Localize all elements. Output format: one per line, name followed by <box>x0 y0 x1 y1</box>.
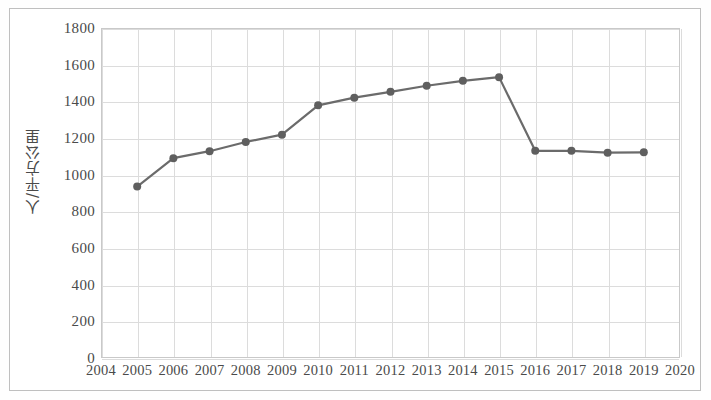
y-axis-tick-label: 1200 <box>5 130 95 147</box>
x-axis-tick-label: 2010 <box>303 362 333 379</box>
line-series-svg <box>101 28 680 358</box>
x-axis-tick-label: 2013 <box>412 362 442 379</box>
x-axis-tick-label: 2015 <box>484 362 514 379</box>
x-axis-tick-label: 2004 <box>86 362 116 379</box>
x-axis-tick-label: 2012 <box>376 362 406 379</box>
x-axis-tick-label: 2020 <box>665 362 695 379</box>
x-axis-tick-label: 2017 <box>557 362 587 379</box>
data-point-marker <box>242 138 250 146</box>
data-point-marker <box>206 147 214 155</box>
x-axis-tick-label: 2014 <box>448 362 478 379</box>
x-axis-tick-label: 2018 <box>593 362 623 379</box>
data-point-marker <box>640 148 648 156</box>
x-axis-tick-label: 2006 <box>158 362 188 379</box>
data-point-marker <box>278 131 286 139</box>
gridline-vertical <box>681 29 682 357</box>
data-point-marker <box>314 101 322 109</box>
data-point-marker <box>350 94 358 102</box>
x-axis-tick-label: 2016 <box>520 362 550 379</box>
y-axis-tick-label: 1000 <box>5 166 95 183</box>
data-point-marker <box>604 149 612 157</box>
data-point-marker <box>567 147 575 155</box>
chart-figure: 人/平方公里 180016001400120010008006004002000… <box>0 0 711 400</box>
x-axis-tick-labels: 2004200520062007200820092010201120122013… <box>101 362 680 388</box>
y-axis-tick-labels: 180016001400120010008006004002000 <box>0 28 95 358</box>
y-axis-tick-label: 800 <box>5 203 95 220</box>
y-axis-tick-label: 1800 <box>5 20 95 37</box>
x-axis-tick-label: 2011 <box>340 362 369 379</box>
x-axis-tick-label: 2009 <box>267 362 297 379</box>
x-axis-tick-label: 2007 <box>195 362 225 379</box>
x-axis-tick-label: 2019 <box>629 362 659 379</box>
data-point-marker <box>459 77 467 85</box>
data-point-marker <box>423 82 431 90</box>
data-point-marker <box>531 147 539 155</box>
data-point-marker <box>169 154 177 162</box>
data-point-marker <box>387 88 395 96</box>
y-axis-tick-label: 400 <box>5 276 95 293</box>
gridline-horizontal <box>102 359 679 360</box>
y-axis-tick-label: 1600 <box>5 56 95 73</box>
y-axis-tick-label: 1400 <box>5 93 95 110</box>
y-axis-tick-label: 0 <box>5 350 95 367</box>
data-point-marker <box>133 183 141 191</box>
x-axis-tick-label: 2008 <box>231 362 261 379</box>
y-axis-tick-label: 200 <box>5 313 95 330</box>
y-axis-tick-label: 600 <box>5 240 95 257</box>
data-point-marker <box>495 73 503 81</box>
x-axis-tick-label: 2005 <box>122 362 152 379</box>
